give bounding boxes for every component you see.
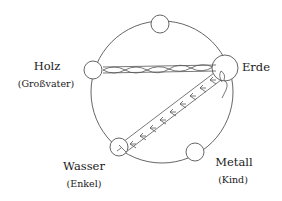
node-top [151, 15, 169, 33]
node-holz [84, 61, 102, 79]
label-holz-sub: (Großvater) [18, 78, 75, 89]
holz-erde-connection [103, 65, 216, 73]
node-metall [186, 143, 204, 161]
label-erde: Erde [242, 60, 270, 74]
label-wasser-sub: (Enkel) [67, 178, 102, 189]
label-holz: Holz [34, 59, 61, 73]
erde-wasser-connection [119, 73, 221, 152]
five-elements-diagram [0, 0, 282, 201]
node-wasser [110, 138, 128, 156]
band-endings [117, 65, 227, 152]
label-metall-sub: (Kind) [218, 174, 248, 185]
node-erde [212, 55, 238, 81]
label-wasser: Wasser [63, 159, 105, 173]
label-metall: Metall [215, 155, 252, 169]
